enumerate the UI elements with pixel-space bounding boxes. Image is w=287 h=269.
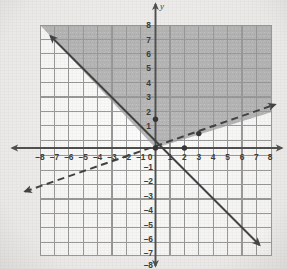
coordinate-plane-svg: –8 –7 –6 –5 –4 –3 –2 –1 0 1 2 3 4 5 6 7 … (0, 0, 287, 269)
svg-text:7: 7 (146, 35, 151, 45)
svg-text:–5: –5 (79, 152, 89, 162)
svg-text:1: 1 (146, 121, 151, 131)
svg-text:0: 0 (148, 152, 153, 162)
svg-text:5: 5 (225, 152, 230, 162)
svg-text:–3: –3 (144, 191, 154, 201)
graph-figure: –8 –7 –6 –5 –4 –3 –2 –1 0 1 2 3 4 5 6 7 … (0, 0, 287, 269)
svg-text:–7: –7 (50, 152, 60, 162)
svg-text:–2: –2 (144, 176, 154, 186)
svg-text:6: 6 (240, 152, 245, 162)
svg-text:–8: –8 (144, 260, 154, 269)
svg-text:4: 4 (211, 152, 216, 162)
y-axis-label: y (159, 1, 164, 11)
point-origin (153, 145, 158, 150)
svg-text:–2: –2 (122, 152, 132, 162)
svg-text:3: 3 (196, 152, 201, 162)
svg-text:2: 2 (182, 152, 187, 162)
svg-text:8: 8 (268, 152, 273, 162)
point-0-2 (153, 117, 158, 122)
svg-text:–7: –7 (144, 248, 154, 258)
point-2-0 (182, 145, 187, 150)
svg-text:6: 6 (146, 49, 151, 59)
svg-text:–6: –6 (64, 152, 74, 162)
svg-text:–5: –5 (144, 220, 154, 230)
svg-text:2: 2 (146, 107, 151, 117)
svg-text:3: 3 (146, 92, 151, 102)
svg-text:–1: –1 (136, 152, 146, 162)
svg-text:5: 5 (146, 63, 151, 73)
svg-text:1: 1 (168, 152, 173, 162)
svg-text:–6: –6 (144, 234, 154, 244)
svg-text:8: 8 (146, 20, 151, 30)
svg-text:–4: –4 (144, 205, 154, 215)
point-3-1 (196, 131, 201, 136)
svg-text:–3: –3 (107, 152, 117, 162)
svg-text:–4: –4 (93, 152, 103, 162)
svg-text:7: 7 (254, 152, 259, 162)
svg-text:–8: –8 (35, 152, 45, 162)
svg-text:4: 4 (146, 78, 151, 88)
svg-text:–1: –1 (144, 162, 154, 172)
